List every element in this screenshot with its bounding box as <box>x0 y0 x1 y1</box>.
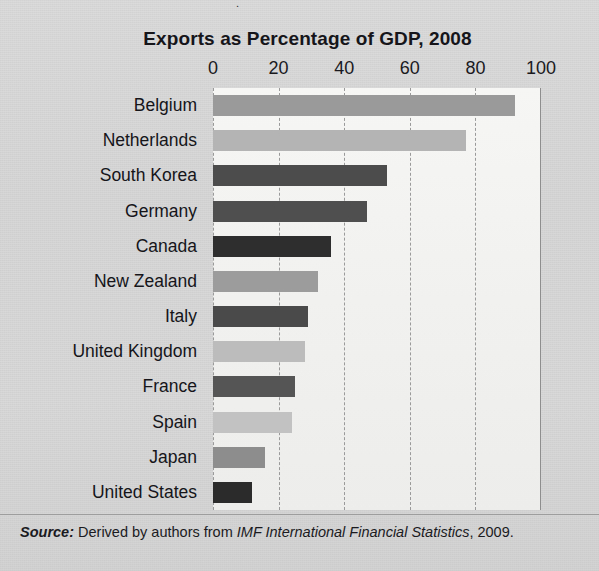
category-label-netherlands: Netherlands <box>0 123 205 158</box>
bar-row <box>213 123 599 158</box>
x-tick-80: 80 <box>465 58 485 79</box>
category-label-united-kingdom: United Kingdom <box>0 334 205 369</box>
bar-spain <box>213 412 292 433</box>
bar-netherlands <box>213 130 466 151</box>
source-text-before: Derived by authors from <box>74 524 237 540</box>
bar-canada <box>213 236 331 257</box>
y-axis-category-labels: BelgiumNetherlandsSouth KoreaGermanyCana… <box>0 88 205 510</box>
exports-gdp-bar-chart: . Exports as Percentage of GDP, 2008 020… <box>0 0 599 571</box>
category-label-italy: Italy <box>0 299 205 334</box>
bar-italy <box>213 306 308 327</box>
category-label-spain: Spain <box>0 405 205 440</box>
bar-south-korea <box>213 165 387 186</box>
x-axis-tick-labels: 020406080100 <box>0 58 599 82</box>
category-label-belgium: Belgium <box>0 88 205 123</box>
bar-row <box>213 369 599 404</box>
category-label-new-zealand: New Zealand <box>0 264 205 299</box>
bar-japan <box>213 447 265 468</box>
bar-row <box>213 440 599 475</box>
bar-row <box>213 229 599 264</box>
source-text-after: , 2009. <box>469 524 513 540</box>
x-tick-40: 40 <box>334 58 354 79</box>
bar-row <box>213 299 599 334</box>
bar-row <box>213 158 599 193</box>
x-tick-100: 100 <box>526 58 556 79</box>
bar-belgium <box>213 95 515 116</box>
bar-france <box>213 376 295 397</box>
category-label-united-states: United States <box>0 475 205 510</box>
bar-series <box>213 88 599 510</box>
category-label-japan: Japan <box>0 440 205 475</box>
bar-row <box>213 334 599 369</box>
category-label-canada: Canada <box>0 229 205 264</box>
bar-united-kingdom <box>213 341 305 362</box>
category-label-france: France <box>0 369 205 404</box>
footer-divider <box>0 514 599 515</box>
bar-row <box>213 405 599 440</box>
category-label-south-korea: South Korea <box>0 158 205 193</box>
x-tick-20: 20 <box>269 58 289 79</box>
chart-title: Exports as Percentage of GDP, 2008 <box>0 28 599 50</box>
page-top-text-fragment: . <box>236 0 242 7</box>
x-tick-0: 0 <box>208 58 218 79</box>
category-label-germany: Germany <box>0 194 205 229</box>
x-tick-60: 60 <box>400 58 420 79</box>
bar-new-zealand <box>213 271 318 292</box>
bar-row <box>213 264 599 299</box>
source-label: Source: <box>20 524 74 540</box>
bar-row <box>213 475 599 510</box>
bar-germany <box>213 201 367 222</box>
bar-row <box>213 194 599 229</box>
bar-row <box>213 88 599 123</box>
bar-united-states <box>213 482 252 503</box>
source-note: Source: Derived by authors from IMF Inte… <box>20 524 590 540</box>
source-publication-title: IMF International Financial Statistics <box>237 524 470 540</box>
